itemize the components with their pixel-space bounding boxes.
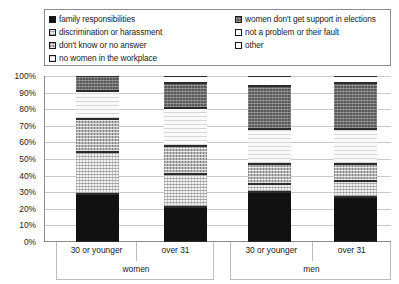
x-axis-group-label: men	[231, 264, 392, 275]
x-axis: 30 or youngerover 31women30 or youngerov…	[44, 242, 391, 282]
x-axis-group: 30 or youngerover 31men	[230, 242, 391, 280]
bar-segment	[248, 76, 291, 86]
bar-segment	[334, 197, 377, 242]
legend-column-left: family responsibilities discrimination o…	[49, 13, 234, 65]
x-axis-group: 30 or youngerover 31women	[56, 242, 214, 280]
y-axis-tick-label: 80%	[19, 105, 36, 113]
stacked-bar	[76, 76, 119, 242]
bar-segment	[76, 119, 119, 152]
y-axis-tick-label: 10%	[19, 221, 36, 229]
legend-item: don't know or no answer	[49, 39, 234, 52]
legend-item-label: family responsibilities	[59, 14, 135, 25]
bar-segment	[76, 76, 119, 91]
bar-segment	[76, 152, 119, 194]
bar-segment	[334, 164, 377, 181]
legend-item-label: other	[245, 40, 263, 51]
legend-item: no women in the workplace	[49, 52, 234, 65]
bar-segment	[248, 86, 291, 129]
bar-segment	[164, 146, 207, 174]
legend-swatch-icon	[235, 42, 242, 49]
bar-segment	[334, 76, 377, 83]
legend-item-label: not a problem or their fault	[245, 27, 339, 38]
bar-segment	[164, 83, 207, 108]
legend-swatch-icon	[235, 29, 242, 36]
bar-segment	[76, 194, 119, 242]
legend-item: discrimination or harassment	[49, 26, 234, 39]
legend-swatch-icon	[49, 29, 56, 36]
x-axis-category-label: 30 or younger	[231, 245, 312, 256]
legend-swatch-icon	[49, 16, 56, 23]
y-axis-tick-label: 30%	[19, 188, 36, 196]
legend-column-right: women don't get support in elections not…	[235, 13, 390, 52]
legend-swatch-icon	[49, 55, 56, 62]
bar-segment	[248, 129, 291, 164]
bar-segment	[248, 184, 291, 192]
plot-area	[44, 76, 391, 242]
x-axis-category-label: over 31	[136, 245, 215, 256]
x-axis-group-label: women	[57, 264, 215, 275]
y-axis-tick-label: 70%	[19, 122, 36, 130]
bar-segment	[334, 83, 377, 129]
legend-item-label: women don't get support in elections	[245, 14, 376, 25]
y-axis-tick-label: 90%	[19, 89, 36, 97]
x-axis-category-label: 30 or younger	[57, 245, 136, 256]
stacked-bar	[164, 76, 207, 242]
y-axis-tick-label: 0%	[24, 238, 36, 246]
y-axis-line	[44, 76, 45, 242]
legend-swatch-icon	[49, 42, 56, 49]
legend-item: not a problem or their fault	[235, 26, 390, 39]
x-axis-category-label: over 31	[312, 245, 393, 256]
bar-segment	[248, 164, 291, 184]
bar-segment	[164, 207, 207, 242]
y-axis-tick-label: 40%	[19, 172, 36, 180]
chart-legend: family responsibilities discrimination o…	[44, 9, 391, 66]
y-axis-tick-label: 50%	[19, 155, 36, 163]
legend-item: other	[235, 39, 390, 52]
legend-item-label: don't know or no answer	[59, 40, 146, 51]
y-axis-tick-label: 100%	[15, 72, 36, 80]
bar-segment	[248, 192, 291, 242]
y-axis: 100%90%80%70%60%50%40%30%20%10%0%	[0, 76, 40, 242]
bar-segment	[164, 174, 207, 207]
stacked-bar	[334, 76, 377, 242]
bar-segment	[334, 129, 377, 164]
stacked-bar	[248, 76, 291, 242]
bar-segment	[334, 181, 377, 198]
bar-segment	[164, 76, 207, 83]
legend-item: women don't get support in elections	[235, 13, 390, 26]
legend-item-label: no women in the workplace	[59, 53, 157, 64]
y-axis-tick-label: 20%	[19, 205, 36, 213]
y-axis-tick-label: 60%	[19, 138, 36, 146]
legend-item-label: discrimination or harassment	[59, 27, 162, 38]
bar-segment	[76, 91, 119, 119]
bar-segment	[164, 108, 207, 146]
legend-item: family responsibilities	[49, 13, 234, 26]
legend-swatch-icon	[235, 16, 242, 23]
